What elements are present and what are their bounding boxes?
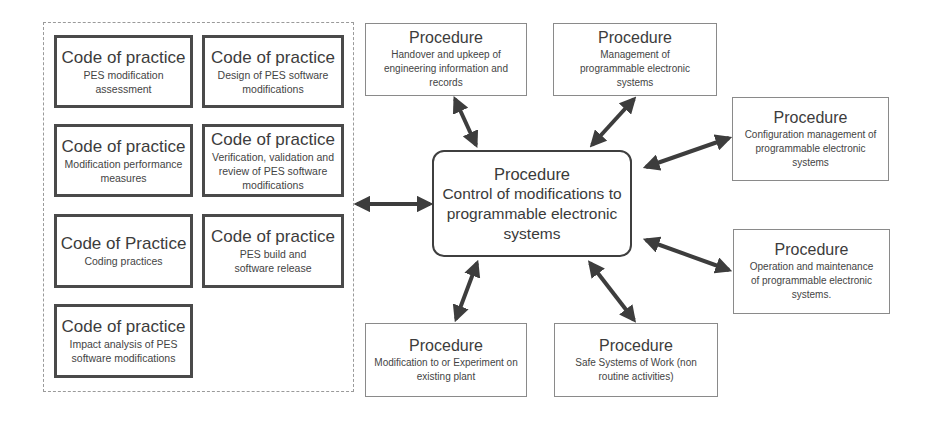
cop-subtitle: Verification, validation and review of P…: [211, 150, 336, 192]
procedure-subtitle: Management of programmable electronic sy…: [570, 48, 700, 90]
procedure-title: Procedure: [599, 337, 673, 355]
cop-subtitle: Modification performance measures: [61, 157, 186, 185]
cop-title: Code of practice: [62, 317, 186, 336]
cop-title: Code of practice: [62, 137, 186, 156]
cop-design-pes-software-modifications: Code of practice Design of PES software …: [202, 35, 344, 108]
procedure-title: Procedure: [775, 241, 849, 259]
procedure-title: Procedure: [409, 29, 483, 47]
procedure-subtitle: Modification to or Experiment on existin…: [370, 356, 522, 384]
double-arrow-management-central: [592, 99, 634, 145]
cop-pes-modification-assessment: Code of practice PES modification assess…: [54, 35, 193, 108]
procedure-title: Procedure: [598, 29, 672, 47]
double-arrow-modification-central: [456, 263, 477, 319]
double-arrow-operation-central: [646, 240, 729, 270]
procedure-handover: Procedure Handover and upkeep of enginee…: [365, 23, 527, 96]
procedure-management: Procedure Management of programmable ele…: [553, 23, 717, 96]
procedure-subtitle: Safe Systems of Work (non routine activi…: [571, 356, 701, 384]
procedure-title: Procedure: [409, 337, 483, 355]
double-arrow-safe-systems-central: [590, 263, 634, 320]
procedure-subtitle: Handover and upkeep of engineering infor…: [371, 48, 521, 90]
cop-title: Code of Practice: [61, 234, 187, 253]
cop-coding-practices: Code of Practice Coding practices: [54, 214, 193, 288]
double-arrow-handover-central: [455, 99, 476, 145]
cop-title: Code of practice: [62, 48, 186, 67]
cop-subtitle: PES build and software release: [226, 247, 321, 275]
central-procedure-title: Procedure: [494, 164, 570, 184]
procedure-configuration-management: Procedure Configuration management of pr…: [732, 97, 889, 181]
procedure-subtitle: Operation and maintenance of programmabl…: [747, 260, 877, 302]
central-procedure-subtitle: Control of modifications to programmable…: [442, 184, 622, 244]
procedure-title: Procedure: [774, 109, 848, 127]
cop-subtitle: Design of PES software modifications: [211, 68, 336, 96]
cop-subtitle: Coding practices: [84, 254, 162, 268]
procedure-operation-maintenance: Procedure Operation and maintenance of p…: [733, 229, 890, 314]
procedure-safe-systems-of-work: Procedure Safe Systems of Work (non rout…: [554, 323, 718, 397]
cop-impact-analysis: Code of practice Impact analysis of PES …: [54, 304, 193, 378]
cop-pes-build-software-release: Code of practice PES build and software …: [202, 214, 344, 288]
procedure-modification-experiment: Procedure Modification to or Experiment …: [365, 323, 527, 397]
diagram-canvas: Code of practice PES modification assess…: [0, 0, 930, 424]
central-procedure: Procedure Control of modifications to pr…: [432, 150, 632, 257]
cop-title: Code of practice: [211, 48, 335, 67]
cop-title: Code of practice: [211, 227, 335, 246]
cop-verification-validation-review: Code of practice Verification, validatio…: [202, 124, 344, 197]
cop-subtitle: Impact analysis of PES software modifica…: [61, 337, 186, 365]
double-arrow-configuration-central: [646, 138, 729, 167]
procedure-subtitle: Configuration management of programmable…: [737, 128, 884, 170]
cop-title: Code of practice: [211, 130, 335, 149]
cop-subtitle: PES modification assessment: [74, 68, 174, 96]
cop-modification-performance-measures: Code of practice Modification performanc…: [54, 124, 193, 197]
